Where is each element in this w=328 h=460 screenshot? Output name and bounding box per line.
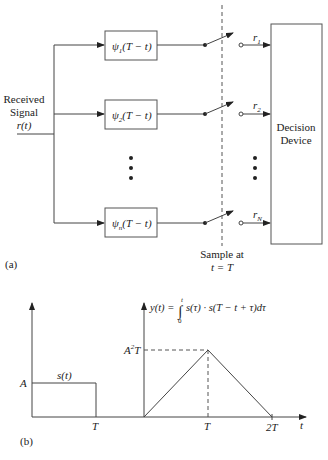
y-t-formula: y(t) = xyxy=(149,302,174,314)
integral-lower-limit: 0 xyxy=(178,317,182,325)
sampler-switch-1 xyxy=(203,33,243,47)
output-label-rN: rN xyxy=(253,208,262,223)
ellipsis-dot xyxy=(129,166,133,170)
s-t-pulse xyxy=(32,383,96,417)
input-label-signal: Signal xyxy=(10,106,38,118)
signal-plots: s(t) A T y(t) = t ∫ 0 s(τ) · s(T − t + τ… xyxy=(19,296,306,448)
ellipsis-dot xyxy=(253,156,257,160)
s-t-label: s(t) xyxy=(57,369,72,382)
left-y-tick-A: A xyxy=(19,377,27,389)
integrand: s(τ) · s(T − t + τ)dτ xyxy=(186,302,267,314)
input-label-rt: r(t) xyxy=(17,119,32,132)
sampler-switch-2 xyxy=(203,102,243,116)
matched-filter-figure: Received Signal r(t) ψ1(T − t) ψ2(T − t)… xyxy=(0,0,328,460)
x-axis-label-t: t xyxy=(300,419,304,431)
decision-label-line1: Decision xyxy=(276,121,316,133)
sampler-switch-n xyxy=(203,211,243,225)
output-label-r1: r1 xyxy=(253,31,261,46)
output-label-r2: r2 xyxy=(253,99,261,114)
input-label-received: Received xyxy=(4,93,45,105)
sample-label-line2: t = T xyxy=(211,261,234,273)
ellipsis-dot xyxy=(253,166,257,170)
correlator-bank-diagram: Received Signal r(t) ψ1(T − t) ψ2(T − t)… xyxy=(4,5,322,273)
part-a-label: (a) xyxy=(5,258,18,271)
ellipsis-dot xyxy=(129,176,133,180)
ellipsis-dot xyxy=(253,176,257,180)
right-x-tick-T: T xyxy=(204,420,211,432)
right-x-tick-2T: 2T xyxy=(266,421,279,433)
decision-label-line2: Device xyxy=(280,134,311,146)
left-x-tick-T: T xyxy=(92,420,99,432)
ellipsis-dot xyxy=(129,156,133,160)
sample-label-line1: Sample at xyxy=(200,248,244,260)
part-b-label: (b) xyxy=(20,435,33,448)
right-y-tick-A2T: A2T xyxy=(123,343,141,356)
